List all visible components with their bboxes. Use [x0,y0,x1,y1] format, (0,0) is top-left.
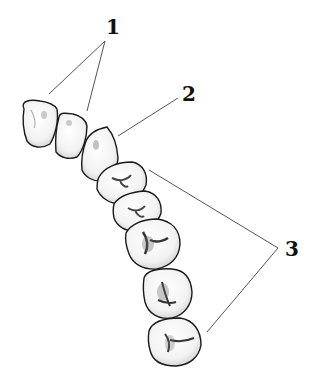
tooth-8 [148,318,201,366]
leader-line-2 [118,98,178,136]
label-3: 3 [285,239,299,259]
label-1: 1 [106,17,120,37]
tooth-7 [143,269,192,319]
tooth-6 [126,219,180,269]
leader-line-3b [207,248,278,332]
label-2: 2 [182,84,196,104]
teeth [23,100,201,366]
leader-line-1b [87,41,105,111]
tooth-diagram [0,0,314,386]
leader-line-1a [49,41,105,94]
tooth-1 [23,100,57,147]
